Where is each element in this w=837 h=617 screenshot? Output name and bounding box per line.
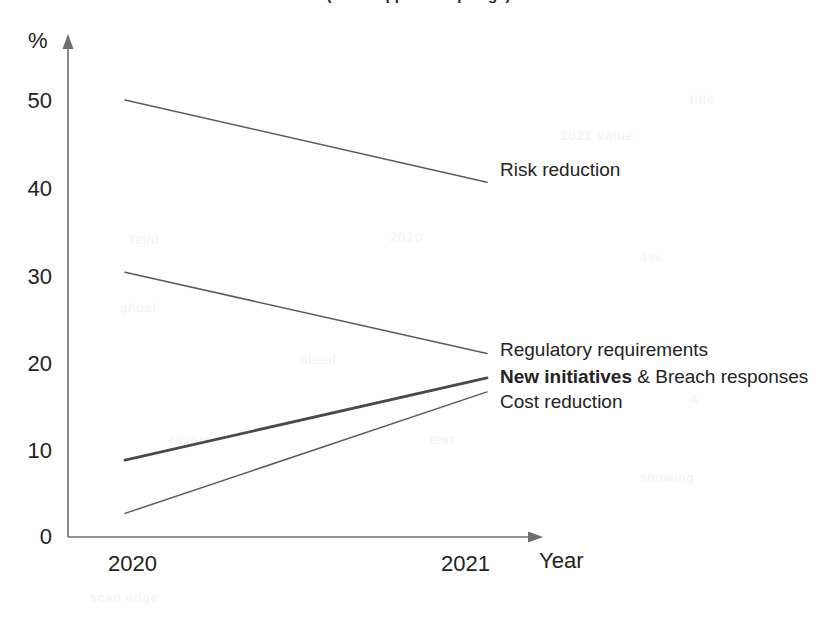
x-axis-title: Year [539,548,583,574]
line-regulatory-requirements [125,272,487,353]
series-label-regulatory-requirements: Regulatory requirements [500,339,708,361]
y-tick-40: 40 [8,176,52,202]
series-label-new-initiatives-breach-responses: New initiatives & Breach responses [500,366,808,388]
x-axis-arrow-icon [528,532,543,543]
line-new-initiatives-breach-responses [125,378,487,460]
x-axis [68,532,543,543]
series-label-breach-responses: & Breach responses [632,366,808,387]
y-tick-30: 30 [8,264,52,290]
chart-canvas [0,0,837,617]
y-axis [63,34,74,537]
x-tick-2020: 2020 [108,551,157,577]
series-lines [125,100,487,513]
series-label-cost-reduction: Cost reduction [500,391,623,413]
y-tick-10: 10 [8,438,52,464]
series-label-new-initiatives-strong: New initiatives [500,366,632,387]
y-axis-title: % [28,28,48,54]
scanned-page: title 2021 value faint 2020 4% ghost ble… [0,0,837,617]
line-risk-reduction [125,100,487,182]
line-cost-reduction [125,392,487,514]
x-tick-2021: 2021 [441,551,490,577]
series-label-risk-reduction: Risk reduction [500,159,620,181]
y-tick-50: 50 [8,88,52,114]
y-axis-arrow-icon [63,34,74,49]
y-tick-20: 20 [8,351,52,377]
y-tick-0: 0 [8,524,52,550]
